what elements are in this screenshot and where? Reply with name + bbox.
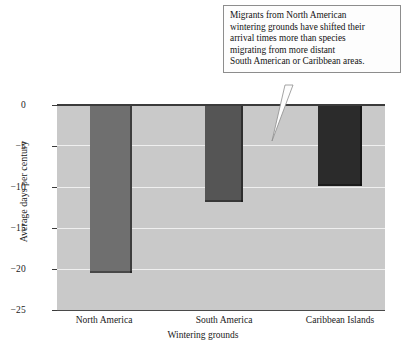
plot-area [57,105,385,310]
bar-edge [360,105,362,186]
y-tick-mark-minus20 [52,269,57,270]
y-axis-title: Average days per century [18,107,29,277]
bar-caribbean-islands[interactable] [318,105,362,186]
bar-south-america[interactable] [205,105,243,202]
annotation-callout: Migrants from North American wintering g… [223,5,401,73]
y-zero-axis-line [57,104,385,106]
x-tick-label-north-america: North America [58,314,150,326]
bar-edge [241,105,243,202]
y-tick-mark-minus10 [52,187,57,188]
y-tick-mark-minus25 [52,310,57,311]
bar-edge [318,184,362,186]
bar-edge [130,105,132,273]
x-axis-line [57,310,385,311]
bar-north-america[interactable] [90,105,132,273]
bar-chart-figure: 0 −5 −10 −15 −20 −25 Average days per ce… [0,0,406,353]
x-tick-label-caribbean-islands: Caribbean Islands [290,314,390,326]
bar-edge [205,200,243,202]
annotation-callout-text: Migrants from North American wintering g… [230,10,395,68]
y-tick-label-minus25: −25 [0,305,26,315]
bar-edge [90,271,132,273]
y-tick-mark-0 [52,105,57,106]
x-axis-title: Wintering grounds [0,330,406,340]
x-tick-label-south-america: South America [178,314,270,326]
y-tick-mark-minus5 [52,146,57,147]
y-tick-mark-minus15 [52,228,57,229]
